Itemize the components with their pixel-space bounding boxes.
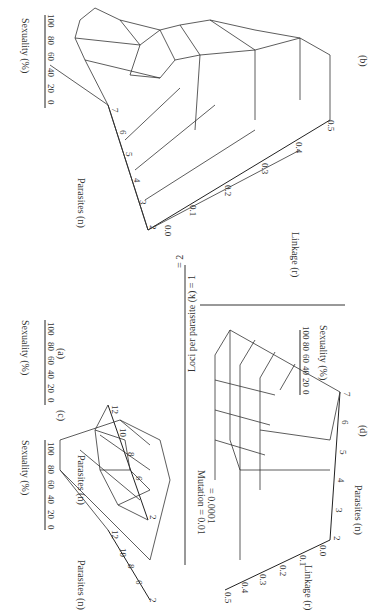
panel-a-zlabel: Sexuality (%) [19,320,31,375]
loci-label-right: = 2 [174,255,185,268]
mutation-label-bottom: = 0.0001 [206,488,217,524]
svg-text:10: 10 [118,548,128,558]
panel-a-xlabel: Parasites (n) [75,455,87,505]
svg-text:0: 0 [46,525,56,530]
svg-text:0.4: 0.4 [240,582,250,594]
svg-text:0.0: 0.0 [163,225,173,237]
svg-text:100: 100 [46,14,56,28]
svg-text:6: 6 [340,420,350,425]
svg-text:100: 100 [301,326,311,340]
panel-b-ylabel: Linkage (r) [289,232,301,277]
svg-text:6: 6 [134,580,144,585]
loci-label-left: Loci per parasite (k) = 1 [186,275,198,372]
svg-text:80: 80 [46,465,56,475]
panel-c-xlabel: Parasites (n) [75,560,87,610]
svg-text:5: 5 [338,450,348,455]
svg-text:0.3: 0.3 [260,163,270,175]
svg-text:7: 7 [342,392,352,397]
svg-text:3: 3 [334,508,344,513]
panel-b-xlabel: Parasites (n) [75,178,87,228]
panel-d: (d) Sexuality (%) Parasites (n) Linkage … [215,325,369,610]
svg-text:2: 2 [332,536,342,541]
panel-c-label: (c) [55,410,67,421]
svg-text:20: 20 [46,510,56,520]
svg-text:5: 5 [124,152,134,157]
svg-text:20: 20 [301,378,311,388]
figure-canvas: Mutation = 0.01 = 0.0001 Loci per parasi… [0,0,379,610]
panel-a: (a) Sexuality (%) Parasites (n) 0 20 40 … [19,320,158,520]
svg-text:0.0: 0.0 [318,545,328,557]
svg-text:40: 40 [46,68,56,78]
svg-text:6: 6 [118,130,128,135]
svg-text:7: 7 [110,108,120,113]
panel-c-zlabel: Sexuality (%) [19,440,31,495]
svg-text:0.2: 0.2 [278,565,288,576]
panel-d-ylabel: Linkage (r) [302,565,314,610]
svg-text:100: 100 [46,442,56,456]
svg-text:60: 60 [46,52,56,62]
svg-text:80: 80 [301,342,311,352]
svg-text:2: 2 [148,515,158,520]
svg-text:80: 80 [46,36,56,46]
svg-text:40: 40 [46,495,56,505]
svg-text:60: 60 [46,356,56,366]
svg-text:0: 0 [46,100,56,105]
svg-text:20: 20 [46,84,56,94]
svg-text:0: 0 [301,390,311,395]
panel-d-zlabel: Sexuality (%) [317,325,329,380]
svg-text:4: 4 [132,178,142,183]
panel-c: (c) Sexuality (%) Parasites (n) 0 20 40 … [19,410,170,610]
panel-d-xlabel: Parasites (n) [352,485,364,535]
panel-b-label: (b) [357,55,369,67]
svg-text:80: 80 [46,342,56,352]
mutation-label-top: Mutation = 0.01 [196,470,207,535]
svg-text:10: 10 [118,428,128,438]
svg-text:2: 2 [148,598,158,603]
panel-d-label: (d) [357,425,369,437]
svg-text:12: 12 [110,530,120,539]
svg-text:0.5: 0.5 [326,120,336,132]
panel-b: (b) Sexuality (%) Parasites (n) Linkage … [19,8,369,277]
svg-text:12: 12 [110,405,120,414]
svg-text:60: 60 [301,354,311,364]
svg-text:100: 100 [46,322,56,336]
svg-text:0.3: 0.3 [258,574,268,586]
svg-text:4: 4 [336,478,346,483]
svg-text:0.5: 0.5 [223,592,233,604]
svg-text:0: 0 [46,398,56,403]
svg-text:20: 20 [46,384,56,394]
svg-text:0.1: 0.1 [298,555,308,566]
svg-text:0.2: 0.2 [223,185,233,196]
svg-text:40: 40 [46,370,56,380]
svg-text:60: 60 [46,480,56,490]
svg-text:8: 8 [126,564,136,569]
panel-b-zlabel: Sexuality (%) [19,18,31,73]
